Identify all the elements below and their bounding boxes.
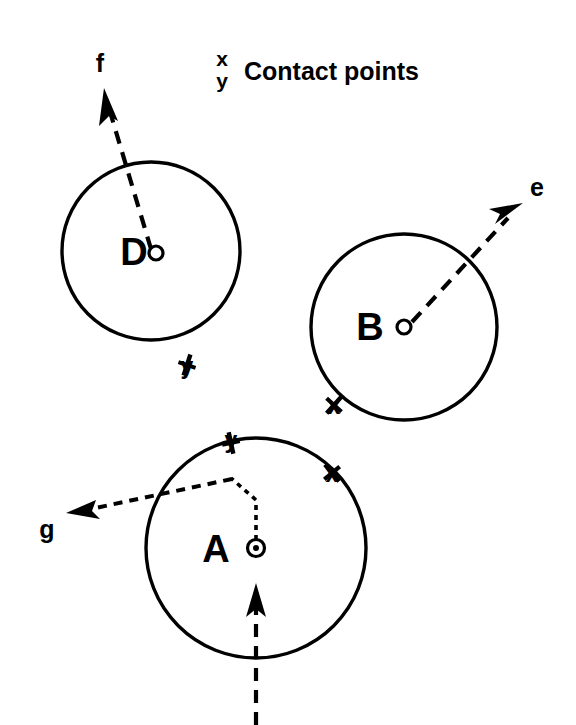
force-g-arrowhead <box>66 500 100 519</box>
body-a-center-dot <box>253 545 259 551</box>
force-e-label: e <box>530 173 544 201</box>
legend-key-y: y <box>216 69 228 92</box>
legend: x y Contact points <box>216 47 419 92</box>
body-d-contact-y-label: y <box>181 353 194 379</box>
body-a-contact-x-label: x <box>326 461 339 487</box>
body-a-label: A <box>202 528 229 570</box>
body-b-contact-x-label: x <box>328 393 341 419</box>
legend-caption: Contact points <box>244 57 419 85</box>
force-f-label: f <box>96 49 105 77</box>
legend-key-x: x <box>216 47 228 70</box>
force-f-line <box>108 105 151 249</box>
force-f-arrowhead <box>99 88 118 126</box>
body-a-lever-path <box>231 478 256 540</box>
body-a-contact-y-label: y <box>225 427 238 453</box>
body-d-group: D f y <box>62 49 240 379</box>
body-b-group: B e x <box>311 173 544 420</box>
body-b-label: B <box>356 306 383 348</box>
force-g-label: g <box>39 515 54 543</box>
body-b-center-marker <box>397 320 411 334</box>
body-d-label: D <box>120 231 147 273</box>
contact-points-diagram: x y Contact points D f y B <box>0 0 576 725</box>
diagram-canvas: x y Contact points D f y B <box>0 0 576 725</box>
body-a-group: A g y x <box>39 427 366 725</box>
